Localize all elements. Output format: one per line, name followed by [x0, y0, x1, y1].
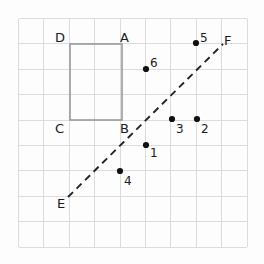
point-dot-2: [194, 116, 200, 122]
point-dot-5: [193, 40, 199, 46]
line-endpoint-label-E: E: [57, 196, 65, 211]
point-dot-4: [117, 168, 123, 174]
point-dot-6: [143, 66, 149, 72]
point-label-6: 6: [150, 56, 158, 70]
point-label-1: 1: [150, 146, 158, 160]
rectangle-ABCD: [70, 44, 122, 120]
point-label-5: 5: [200, 31, 208, 45]
vertex-label-D: D: [55, 30, 65, 45]
vertex-label-A: A: [120, 30, 129, 45]
figure-canvas: DACBEF123456: [0, 0, 264, 264]
vertex-label-C: C: [55, 121, 64, 136]
point-label-2: 2: [201, 122, 209, 136]
point-dot-3: [169, 116, 175, 122]
point-label-4: 4: [124, 174, 132, 188]
vertex-label-B: B: [120, 121, 129, 136]
geometry-figure: DACBEF123456: [0, 0, 264, 264]
point-label-3: 3: [176, 122, 184, 136]
line-endpoint-label-F: F: [224, 33, 231, 48]
point-dot-1: [143, 142, 149, 148]
